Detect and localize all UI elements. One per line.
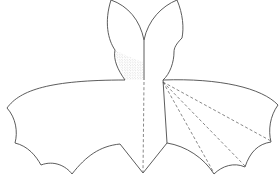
right-wing-fold-lines	[163, 82, 271, 173]
right-body-edge	[163, 80, 167, 143]
bat-outline	[7, 0, 278, 174]
center-fold-line	[143, 82, 144, 172]
fold-line-2	[163, 82, 245, 166]
bat-diagram	[0, 0, 279, 187]
stippled-shoulder	[115, 50, 143, 80]
